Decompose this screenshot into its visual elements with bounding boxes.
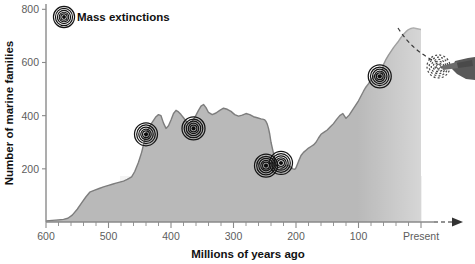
x-tick-label: 400	[162, 230, 180, 242]
y-tick-label: 800	[21, 3, 39, 15]
legend-rings-icon	[53, 6, 74, 27]
legend: Mass extinctions	[53, 6, 169, 27]
legend-marker-icon	[53, 6, 74, 27]
y-tick-label: 600	[21, 56, 39, 68]
x-axis-arrowhead	[452, 218, 463, 227]
paper-gloss-overlay	[357, 4, 421, 222]
x-tick-label: Present	[403, 230, 439, 242]
data-area	[46, 4, 421, 222]
x-axis-title: Millions of years ago	[191, 248, 305, 260]
x-tick-label: 600	[37, 230, 55, 242]
y-tick-label: 200	[21, 163, 39, 175]
y-tick-label: 400	[21, 110, 39, 122]
x-tick-label: 100	[350, 230, 368, 242]
chart-container: 200400600800 600500400300200100Present N…	[0, 0, 475, 264]
x-tick-label: 300	[225, 230, 243, 242]
y-axis-ticks: 200400600800	[21, 3, 46, 175]
x-tick-label: 200	[287, 230, 305, 242]
marine-families-chart: 200400600800 600500400300200100Present N…	[0, 0, 475, 264]
legend-label-mass-extinctions: Mass extinctions	[77, 11, 170, 23]
y-axis-title: Number of marine families	[3, 41, 15, 185]
x-axis-ticks: 600500400300200100Present	[37, 222, 439, 242]
x-tick-label: 500	[100, 230, 118, 242]
